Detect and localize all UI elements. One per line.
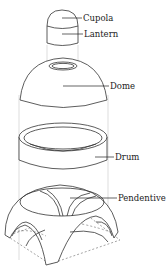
diagram-canvas: Cupola Lantern Dome Drum Pendentive [0,0,168,273]
drum-shape [19,123,107,169]
label-dome: Dome [110,81,135,91]
label-cupola: Cupola [83,13,113,23]
pendentive-shape [5,185,120,265]
label-lantern: Lantern [84,29,119,39]
label-pendentive: Pendentive [118,193,166,203]
labels: Cupola Lantern Dome Drum Pendentive [83,13,166,203]
dome-shape [20,58,107,108]
cupola-lantern-shape [47,10,78,46]
label-drum: Drum [115,152,139,162]
dome-exploded-diagram: Cupola Lantern Dome Drum Pendentive [0,0,168,273]
